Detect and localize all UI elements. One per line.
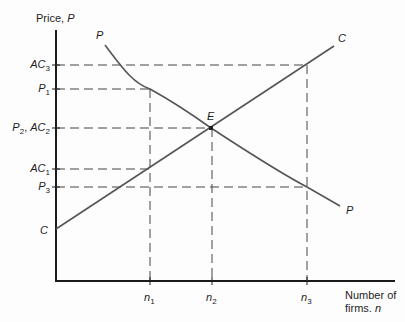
x-axis-title: Number of firms. n (345, 290, 396, 314)
x-tick-n2: n2 (206, 292, 217, 306)
y-axis-title: Price, P (36, 13, 75, 24)
y-tick-p3: P3 (38, 181, 50, 195)
diagram-canvas (0, 0, 405, 322)
equilibrium-point (209, 126, 213, 130)
label-equilibrium-e: E (207, 111, 214, 122)
y-tick-p1: P1 (38, 83, 50, 97)
price-curve-p (105, 45, 340, 206)
y-tick-ac1: AC1 (30, 163, 50, 177)
y-tick-p2-ac2: P2, AC2 (12, 122, 50, 136)
y-tick-ac3: AC3 (30, 59, 50, 73)
label-p-top: P (96, 30, 103, 41)
price-vs-number-of-firms-diagram: Price, P AC3 P1 P2, AC2 AC1 P3 P P C C E… (0, 0, 405, 322)
label-c-top: C (338, 33, 346, 44)
x-tick-n1: n1 (144, 292, 155, 306)
cost-curve-c (56, 46, 334, 229)
label-c-bottom: C (40, 225, 48, 236)
label-p-bottom: P (346, 205, 353, 216)
x-tick-n3: n3 (301, 292, 312, 306)
